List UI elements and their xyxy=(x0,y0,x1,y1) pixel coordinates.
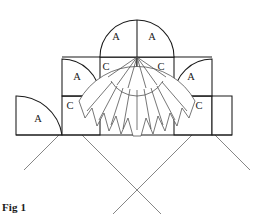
tier1-arch-group xyxy=(100,20,174,57)
guide-diagonal-left-lower xyxy=(82,135,161,214)
tier1-right-A-label: A xyxy=(148,31,156,42)
tier2-right-arch-A-label: A xyxy=(187,71,195,82)
architectural-diagram: A A A C C A A C C xyxy=(0,0,280,214)
figure-caption: Fig 1 xyxy=(2,201,26,213)
guide-diagonal-right-lower xyxy=(113,135,192,214)
shell-fan-group xyxy=(79,57,195,136)
tier2-right-block-C-label: C xyxy=(157,61,164,72)
tier2-left-arch-A-label: A xyxy=(73,71,81,82)
tier2-left-block-C-label: C xyxy=(102,61,109,72)
figure-container: A A A C C A A C C Fig 1 xyxy=(0,0,280,214)
tier3-right-block-C-label: C xyxy=(195,100,202,111)
tier1-left-A-label: A xyxy=(112,31,120,42)
tier3-left-block-C-label: C xyxy=(66,100,73,111)
tier3-left-arch-A-label: A xyxy=(34,113,42,124)
tier3-right-arch-shape xyxy=(212,96,232,135)
